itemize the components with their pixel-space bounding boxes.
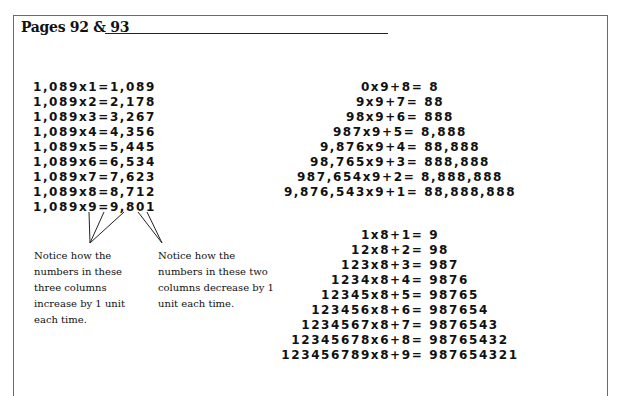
equation-row: 9,876,543x9+1= 88,888,888 [280, 185, 520, 200]
equation-row: 123456789x8+9= 987654321 [280, 348, 520, 363]
pyramid-nines: 0x9+8= 8 9x9+7= 88 98x9+6= 888 987x9+5= … [280, 80, 520, 200]
equation-row: 987,654x9+2= 8,888,888 [280, 170, 520, 185]
note-decrease: Notice how the numbers in these two colu… [158, 248, 278, 312]
equation-row: 12345678x6+8= 98765432 [280, 333, 520, 348]
equation-row: 123x8+3= 987 [280, 258, 520, 273]
equation-row: 98,765x9+3= 888,888 [280, 155, 520, 170]
equation-row: 123456x8+6= 987654 [280, 303, 520, 318]
equation-row: 98x9+6= 888 [280, 110, 520, 125]
pyramid-eights: 1x8+1= 9 12x8+2= 98 123x8+3= 987 1234x8+… [280, 228, 520, 363]
note-increase: Notice how the numbers in these three co… [34, 248, 134, 328]
equation-row: 9,876x9+4= 88,888 [280, 140, 520, 155]
equation-row: 1x8+1= 9 [280, 228, 520, 243]
equation-row: 9x9+7= 88 [280, 95, 520, 110]
equation-row: 12345x8+5= 98765 [280, 288, 520, 303]
equation-row: 987x9+5= 8,888 [280, 125, 520, 140]
equation-row: 1234x8+4= 9876 [280, 273, 520, 288]
equation-row: 1234567x8+7= 9876543 [280, 318, 520, 333]
equation-row: 12x8+2= 98 [280, 243, 520, 258]
equation-row: 0x9+8= 8 [280, 80, 520, 95]
